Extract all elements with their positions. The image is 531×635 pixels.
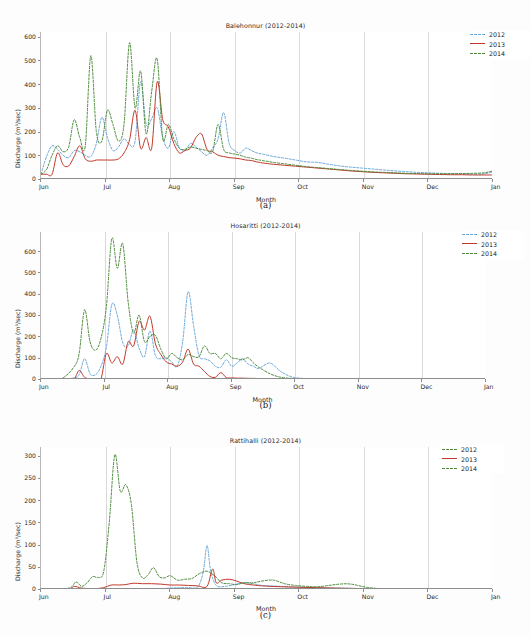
y-tick-label: 500 — [14, 269, 36, 276]
legend-b: 2012 2013 2014 — [462, 230, 524, 259]
plot-area-b — [40, 232, 485, 379]
plot-area-c — [40, 447, 492, 589]
y-tick-label: 100 — [14, 152, 36, 159]
x-tick-mark — [104, 379, 105, 382]
y-tick-mark — [38, 456, 41, 457]
series-line-2014 — [41, 454, 492, 588]
x-tick-mark — [485, 379, 486, 382]
x-tick-label: Jan — [491, 183, 501, 190]
x-tick-mark — [363, 179, 364, 182]
series-line-2012 — [41, 546, 492, 588]
y-tick-label: 150 — [14, 519, 36, 526]
y-tick-mark — [38, 567, 41, 568]
series-group — [41, 232, 485, 378]
y-tick-mark — [38, 155, 41, 156]
y-tick-label: 600 — [14, 33, 36, 40]
y-tick-mark — [38, 37, 41, 38]
legend-label: 2014 — [489, 49, 505, 58]
y-tick-mark — [38, 294, 41, 295]
chart-title-a: Balehonnur (2012-2014) — [0, 22, 531, 29]
y-tick-label: 300 — [14, 104, 36, 111]
legend-c: 2012 2013 2014 — [442, 445, 504, 474]
y-tick-label: 100 — [14, 354, 36, 361]
legend-item[interactable]: 2014 — [442, 464, 504, 474]
legend-item[interactable]: 2014 — [470, 49, 530, 59]
x-tick-label: Jul — [104, 593, 111, 600]
chart-title-b: Hosaritti (2012-2014) — [0, 222, 531, 229]
legend-label: 2012 — [481, 230, 497, 239]
x-tick-mark — [234, 589, 235, 592]
x-tick-label: Oct — [297, 183, 308, 190]
x-tick-mark — [231, 379, 232, 382]
y-tick-mark — [38, 358, 41, 359]
y-tick-mark — [38, 84, 41, 85]
x-tick-label: Aug — [168, 183, 180, 190]
page-top-strip — [0, 0, 531, 9]
x-tick-label: Aug — [168, 593, 180, 600]
legend-item[interactable]: 2012 — [470, 30, 530, 40]
x-tick-mark — [169, 179, 170, 182]
x-tick-mark — [105, 179, 106, 182]
x-tick-label: Jun — [39, 383, 49, 390]
chart-panel-b: Hosaritti (2012-2014) Discharge (m³/sec)… — [0, 218, 531, 418]
x-tick-label: Oct — [297, 593, 308, 600]
x-tick-label: Nov — [362, 593, 374, 600]
x-tick-mark — [167, 379, 168, 382]
y-tick-label: 0 — [14, 375, 36, 382]
y-tick-mark — [38, 545, 41, 546]
legend-label: 2013 — [489, 40, 505, 49]
y-axis-label-a: Discharge (m³/sec) — [14, 109, 21, 168]
x-tick-mark — [421, 379, 422, 382]
x-tick-label: Dec — [426, 593, 438, 600]
legend-item[interactable]: 2012 — [442, 445, 504, 455]
legend-item[interactable]: 2014 — [462, 249, 524, 259]
series-line-2014 — [41, 238, 485, 378]
y-tick-label: 400 — [14, 290, 36, 297]
subfigure-caption-c: (c) — [0, 610, 531, 620]
chart-panel-c: Rattihalli (2012-2014) Discharge (m³/sec… — [0, 433, 531, 628]
y-tick-label: 50 — [14, 563, 36, 570]
figure-page: Balehonnur (2012-2014) Discharge (m³/sec… — [0, 0, 531, 635]
y-tick-mark — [38, 272, 41, 273]
legend-item[interactable]: 2012 — [462, 230, 524, 240]
y-tick-label: 0 — [14, 585, 36, 592]
legend-label: 2013 — [461, 455, 477, 464]
x-tick-label: Aug — [166, 383, 178, 390]
y-tick-mark — [38, 132, 41, 133]
x-tick-label: Jan — [484, 383, 494, 390]
x-tick-label: Dec — [426, 183, 438, 190]
x-tick-mark — [492, 179, 493, 182]
y-tick-label: 400 — [14, 81, 36, 88]
y-tick-label: 250 — [14, 474, 36, 481]
legend-item[interactable]: 2013 — [462, 240, 524, 250]
x-tick-mark — [105, 589, 106, 592]
x-tick-label: Dec — [420, 383, 432, 390]
series-line-2013 — [41, 316, 485, 378]
legend-item[interactable]: 2013 — [442, 455, 504, 465]
legend-label: 2013 — [481, 240, 497, 249]
legend-item[interactable]: 2013 — [470, 40, 530, 50]
y-tick-mark — [38, 336, 41, 337]
chart-panel-a: Balehonnur (2012-2014) Discharge (m³/sec… — [0, 18, 531, 218]
x-tick-label: Jul — [104, 183, 111, 190]
x-tick-label: Sep — [233, 183, 245, 190]
series-line-2014 — [41, 43, 492, 175]
subfigure-caption-a: (a) — [0, 200, 531, 210]
subfigure-caption-b: (b) — [0, 400, 531, 410]
x-tick-label: Jul — [103, 383, 110, 390]
y-tick-label: 200 — [14, 333, 36, 340]
y-tick-mark — [38, 60, 41, 61]
x-tick-label: Jan — [491, 593, 501, 600]
x-tick-label: Oct — [293, 383, 304, 390]
x-tick-mark — [358, 379, 359, 382]
y-tick-label: 600 — [14, 248, 36, 255]
x-tick-mark — [298, 589, 299, 592]
y-tick-label: 200 — [14, 128, 36, 135]
y-tick-mark — [38, 315, 41, 316]
x-tick-label: Nov — [362, 183, 374, 190]
x-tick-mark — [40, 179, 41, 182]
y-tick-mark — [38, 500, 41, 501]
x-tick-mark — [294, 379, 295, 382]
x-tick-mark — [298, 179, 299, 182]
y-tick-label: 300 — [14, 452, 36, 459]
